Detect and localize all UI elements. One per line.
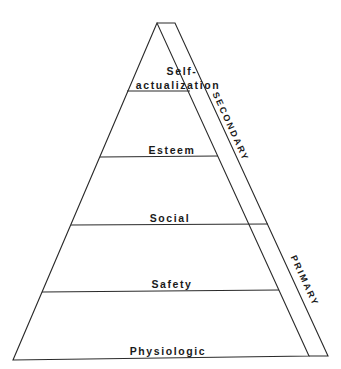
divider-social (71, 224, 268, 225)
level-label-safety: Safety (151, 278, 192, 290)
level-label-physiologic: Physiologic (130, 345, 207, 357)
level-label-esteem: Esteem (149, 144, 196, 156)
level-label-self: Self- (167, 65, 198, 77)
band-label-secondary: SECONDARY (210, 91, 251, 163)
pyramid-outline (13, 23, 309, 360)
hierarchy-pyramid: Self- actualization Esteem Social Safety… (0, 0, 341, 369)
divider-esteem (100, 156, 218, 157)
level-label-social: Social (150, 212, 191, 224)
level-label-actualization: actualization (136, 79, 220, 91)
divider-safety (42, 290, 279, 292)
